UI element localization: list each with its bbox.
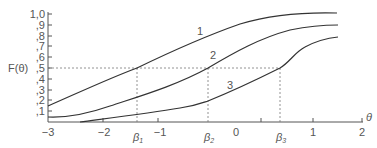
curve-1-label: 1 — [197, 25, 203, 37]
x-tick-label: −3 — [42, 126, 55, 138]
y-tick-labels: 1,0 ,9 ,8 ,7 ,6 ,5 ,4 ,3 ,2 ,1 — [30, 8, 45, 117]
x-axis-label: θ — [366, 111, 372, 123]
y-tick-label: ,1 — [36, 105, 45, 117]
beta2-label: β2 — [203, 131, 214, 144]
x-tick-label: −1 — [154, 126, 167, 138]
y-axis-label: F(θ) — [8, 62, 28, 74]
x-tick-label: 2 — [359, 126, 365, 138]
x-tick-label: −2 — [98, 126, 111, 138]
x-ticks — [103, 118, 362, 122]
x-tick-label: 1 — [310, 126, 316, 138]
x-tick-label: 0 — [233, 126, 239, 138]
y-ticks — [48, 14, 52, 111]
curve-2 — [48, 25, 338, 117]
beta3-label: β3 — [275, 131, 286, 144]
item-characteristic-chart: 1,0 ,9 ,8 ,7 ,6 ,5 ,4 ,3 ,2 ,1 F(θ) −3 −… — [0, 0, 377, 148]
curve-2-label: 2 — [210, 49, 216, 61]
beta1-label: β1 — [132, 131, 143, 144]
curve-1 — [48, 13, 337, 106]
curve-3-label: 3 — [227, 79, 233, 91]
curve-3 — [80, 37, 338, 122]
